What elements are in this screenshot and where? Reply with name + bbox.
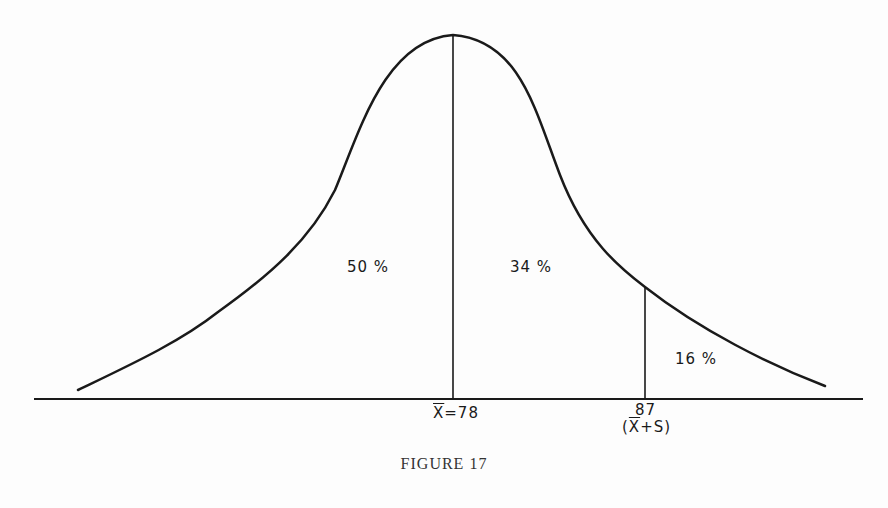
x-bar-symbol: X — [629, 418, 640, 436]
region-label-right: 16 % — [675, 350, 717, 368]
region-label-middle: 34 % — [510, 258, 552, 276]
region-label-left: 50 % — [347, 258, 389, 276]
open-paren: ( — [622, 418, 629, 436]
mean-label: X=78 — [433, 404, 479, 422]
mean-value: =78 — [444, 404, 479, 422]
plus-s-formula: (X+S) — [622, 418, 671, 436]
plus-s-value: 87 — [635, 401, 656, 419]
figure-caption: FIGURE 17 — [0, 455, 888, 473]
x-bar-symbol: X — [433, 404, 444, 422]
normal-curve-diagram — [0, 0, 888, 508]
plus-s-text: +S) — [640, 418, 671, 436]
bell-curve — [78, 35, 825, 390]
